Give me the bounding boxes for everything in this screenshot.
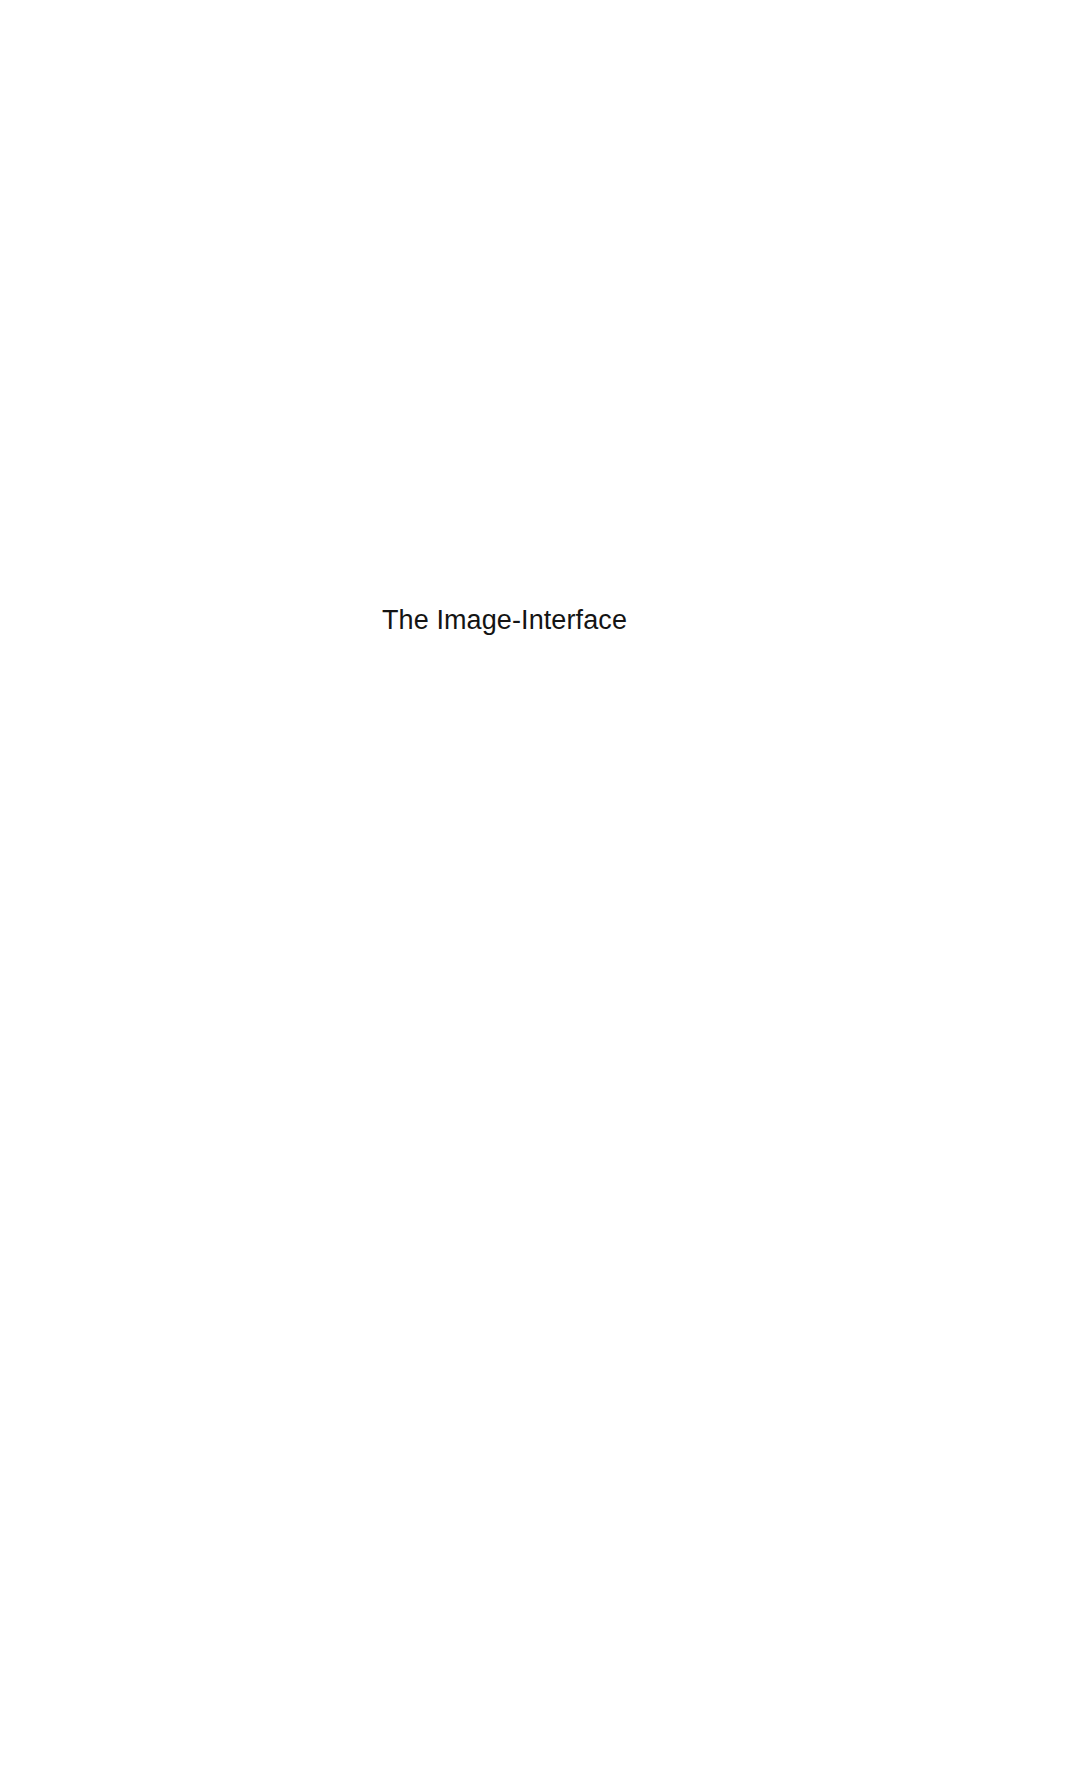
document-page: The Image-Interface — [0, 0, 1069, 1770]
page-title: The Image-Interface — [0, 605, 1009, 636]
